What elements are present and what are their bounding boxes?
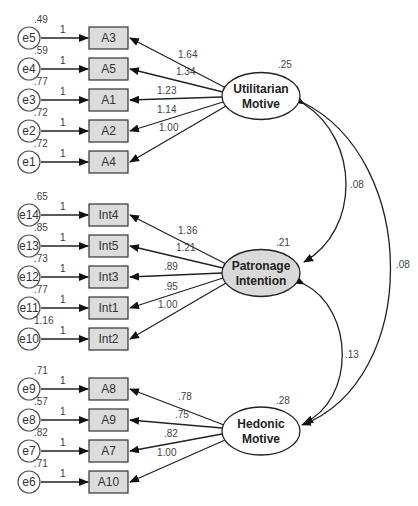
latent-variance: .28 [276,395,290,406]
svg-text:1: 1 [60,148,66,159]
covariance-label-utilitarian-patronage: .08 [350,179,364,190]
svg-text:.49: .49 [34,14,48,25]
error-circle-e1: e1 [18,151,40,173]
covariance-patronage-hedonic [304,284,342,423]
indicator-box-A2: A2 [89,120,128,142]
svg-text:1: 1 [60,294,66,305]
error-circle-e6: e6 [18,471,40,493]
svg-text:A9: A9 [101,413,116,427]
svg-text:e7: e7 [22,444,36,458]
svg-text:1: 1 [60,325,66,336]
covariance-label-utilitarian-hedonic: .08 [396,259,410,270]
svg-text:.85: .85 [34,222,48,233]
svg-text:Intention: Intention [236,274,287,288]
latent-hedonic-motive: Hedonic Motive .28 [222,395,300,455]
loading-label: .82 [164,428,178,439]
loading-label: 1.00 [158,299,178,310]
svg-text:.65: .65 [34,191,48,202]
svg-text:e9: e9 [22,382,36,396]
svg-text:.77: .77 [34,284,48,295]
indicator-box-Int4: Int4 [89,204,128,226]
latent-utilitarian-motive: Utilitarian Motive .25 [222,59,300,120]
svg-text:Motive: Motive [242,432,280,446]
svg-text:1: 1 [60,375,66,386]
indicator-box-Int1: Int1 [89,297,128,319]
svg-text:1: 1 [60,24,66,35]
svg-text:.73: .73 [34,253,48,264]
loading-label: 1.00 [159,122,179,133]
svg-text:e4: e4 [22,62,36,76]
svg-text:1: 1 [60,201,66,212]
indicator-box-A4: A4 [89,151,128,173]
svg-text:.77: .77 [34,76,48,87]
svg-text:Motive: Motive [242,97,280,111]
loading-label: 1.21 [176,242,196,253]
loading-label: .95 [164,281,178,292]
svg-text:e5: e5 [22,31,36,45]
svg-text:e3: e3 [22,93,36,107]
indicator-box-A7: A7 [89,440,128,462]
svg-text:A1: A1 [101,93,116,107]
svg-text:.82: .82 [34,427,48,438]
error-circle-e10: e10 [18,328,40,350]
svg-text:1: 1 [60,232,66,243]
svg-text:e1: e1 [22,155,36,169]
svg-text:.71: .71 [34,365,48,376]
svg-text:Int1: Int1 [98,301,118,315]
loading-label: 1.23 [157,85,177,96]
indicator-box-Int2: Int2 [89,328,128,350]
indicator-box-Int5: Int5 [89,235,128,257]
svg-text:1: 1 [60,437,66,448]
svg-text:A2: A2 [101,124,116,138]
svg-text:e10: e10 [19,332,39,346]
svg-text:e12: e12 [19,270,39,284]
indicator-box-A5: A5 [89,58,128,80]
loading-label: 1.00 [157,447,177,458]
indicator-box-A9: A9 [89,409,128,431]
indicator-box-A8: A8 [89,378,128,400]
svg-text:1: 1 [60,468,66,479]
svg-text:1: 1 [60,117,66,128]
svg-text:e6: e6 [22,475,36,489]
svg-text:e11: e11 [19,301,38,315]
loading-label: 1.36 [178,225,198,236]
indicator-box-Int3: Int3 [89,266,128,288]
svg-text:A5: A5 [101,62,116,76]
svg-text:Int5: Int5 [98,239,118,253]
indicator-box-A3: A3 [89,27,128,49]
svg-text:Int4: Int4 [98,208,118,222]
indicators: A3 A5 A1 A2 A4 Int4 Int5 Int3 Int1 Int2 … [89,27,128,493]
svg-text:A7: A7 [101,444,116,458]
loading-label: .78 [178,391,192,402]
indicator-box-A1: A1 [89,89,128,111]
loading-label: 1.34 [176,66,196,77]
covariance-utilitarian-patronage [304,104,346,262]
svg-text:A8: A8 [101,382,116,396]
svg-text:1: 1 [60,86,66,97]
svg-text:1: 1 [60,55,66,66]
loading-label: .75 [175,409,189,420]
latent-variance: .25 [278,59,292,70]
svg-text:1: 1 [60,263,66,274]
loading-label: 1.64 [178,49,198,60]
svg-text:Int2: Int2 [98,332,118,346]
loading-label: .89 [164,261,178,272]
svg-text:1: 1 [60,406,66,417]
sem-diagram: .08 .13 .08 1.64 1.34 1.23 1.14 1.00 1.3… [0,0,418,506]
svg-text:.72: .72 [34,138,48,149]
svg-text:1.16: 1.16 [34,315,54,326]
svg-text:Patronage: Patronage [232,259,291,273]
svg-text:.59: .59 [34,45,48,56]
svg-text:e8: e8 [22,413,36,427]
svg-text:e13: e13 [19,239,39,253]
covariance-label-patronage-hedonic: .13 [345,349,359,360]
svg-text:e2: e2 [22,124,36,138]
fixed-path-labels: 1 1 1 1 1 1 1 1 1 1 1 1 1 1 [60,24,66,479]
svg-text:.72: .72 [34,107,48,118]
latent-variance: .21 [276,237,290,248]
covariance-paths: .08 .13 .08 [302,102,410,425]
svg-text:A3: A3 [101,31,116,45]
svg-text:Hedonic: Hedonic [237,417,285,431]
svg-text:e14: e14 [19,208,39,222]
svg-text:Utilitarian: Utilitarian [233,82,288,96]
